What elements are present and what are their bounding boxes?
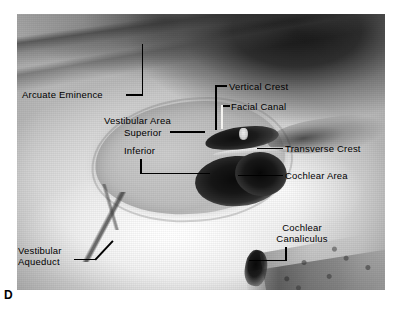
label-cochlear-canaliculus-line1: Cochlear [282, 222, 322, 233]
label-transverse-crest: Transverse Crest [285, 143, 361, 154]
label-facial-canal: Facial Canal [231, 101, 286, 112]
leader-arcuate-eminence-horizontal [126, 94, 143, 96]
leader-cochlear-area [238, 175, 283, 177]
leader-superior [170, 131, 205, 133]
label-arcuate-eminence: Arcuate Eminence [22, 89, 103, 100]
label-cochlear-canaliculus-line2: Canaliculus [276, 233, 327, 244]
leader-vertical-crest-horizontal [215, 85, 227, 87]
label-cochlear-area: Cochlear Area [285, 170, 348, 181]
leader-inferior-horizontal [140, 173, 210, 175]
label-vestibular-aqueduct-line1: Vestibular [18, 245, 62, 256]
leader-facial-canal-vertical [221, 105, 223, 129]
label-inferior: Inferior [124, 145, 155, 156]
figure-panel: Arcuate Eminence Vertical Crest Facial C… [0, 0, 402, 309]
label-vestibular-aqueduct-line2: Aqueduct [18, 256, 60, 267]
label-vestibular-area: Vestibular Area [104, 115, 171, 126]
leader-cochlear-canaliculus-horizontal [249, 260, 286, 262]
leader-vestibular-aqueduct-horizontal [74, 259, 96, 261]
label-cochlear-canaliculus: Cochlear Canaliculus [262, 222, 342, 244]
leader-vertical-crest-vertical [215, 85, 217, 130]
panel-letter-d: D [4, 288, 13, 302]
label-vertical-crest: Vertical Crest [229, 81, 288, 92]
leader-transverse-crest [257, 148, 283, 150]
leader-arcuate-eminence-vertical [142, 44, 144, 95]
label-superior: Superior [124, 127, 162, 138]
label-vestibular-aqueduct: Vestibular Aqueduct [18, 245, 88, 267]
